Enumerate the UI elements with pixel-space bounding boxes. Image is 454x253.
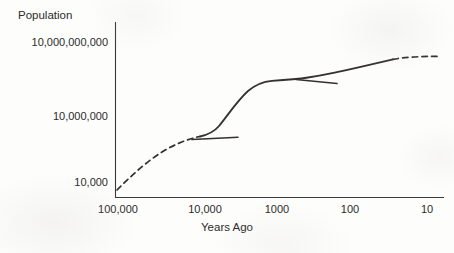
x-tick-label-100000: 100,000	[78, 203, 158, 215]
branch-line-upper	[296, 80, 337, 84]
x-tick-label-1000: 1000	[242, 203, 312, 215]
y-tick-label-10b: 10,000,000,000	[8, 36, 108, 48]
population-curve-dashed-right	[393, 56, 437, 59]
x-axis-title: Years Ago	[0, 221, 454, 233]
population-curve-dashed-left	[117, 137, 200, 191]
y-axis-title: Population	[18, 9, 72, 21]
population-curve-solid-main	[200, 59, 393, 136]
x-tick-label-10000: 10,000	[165, 203, 245, 215]
population-chart-figure: Population 10,000,000,000 10,000,000 10,…	[0, 0, 454, 253]
x-tick-label-100: 100	[320, 203, 380, 215]
x-tick-label-10: 10	[405, 203, 449, 215]
y-tick-label-10k: 10,000	[8, 176, 108, 188]
y-tick-label-10m: 10,000,000	[8, 110, 108, 122]
